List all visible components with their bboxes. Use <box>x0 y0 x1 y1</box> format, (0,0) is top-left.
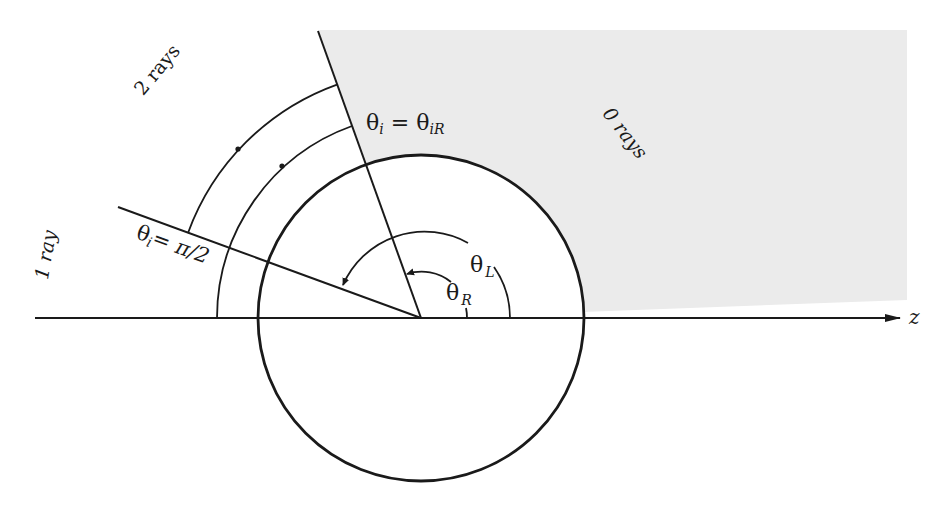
one-ray-label: 1 ray <box>30 228 60 281</box>
theta-R-arc-lower <box>466 308 467 318</box>
two-rays-label: 2 rays <box>129 40 184 99</box>
outer-arc-marker <box>235 146 240 151</box>
diagram-canvas: 2 rays 0 rays 1 ray θi = θiR θi= π/2 θL … <box>0 0 950 510</box>
middle-arc-marker <box>279 163 284 168</box>
z-axis-label: z <box>908 305 920 329</box>
